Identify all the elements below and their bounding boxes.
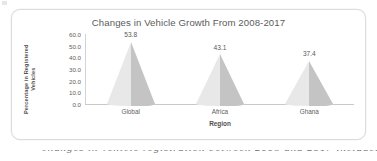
y-axis-tick-label: 0.0 [72, 101, 81, 108]
x-axis-category-label: Global [86, 108, 175, 115]
bar-value-label: 53.8 [124, 31, 137, 38]
y-axis-tick-label: 40.0 [69, 54, 81, 61]
plot-area: 60.050.040.030.020.010.00.0 53.843.137.4… [58, 34, 354, 114]
y-axis-title: Percentage in Registered Vehicles [23, 44, 37, 114]
y-axis-title-line-2: Vehicles [30, 44, 37, 114]
x-axis-category-label: Africa [175, 108, 264, 115]
cone-right-face [220, 54, 244, 104]
bar-slot: 43.1 [175, 34, 264, 104]
x-axis-category-labels: GlobalAfricaGhana [86, 108, 354, 120]
y-axis-tick-label: 60.0 [69, 31, 81, 38]
page-artifact-speck [2, 1, 7, 5]
bar-value-label: 43.1 [214, 44, 227, 51]
cone-bar[interactable] [107, 41, 155, 104]
cone-bar[interactable] [196, 54, 244, 104]
bar-slot: 37.4 [265, 34, 354, 104]
x-axis-category-label: Ghana [265, 108, 354, 115]
y-axis-title-line-1: Percentage in Registered [23, 44, 30, 114]
y-axis-tick-label: 50.0 [69, 42, 81, 49]
y-axis-tick-label: 20.0 [69, 77, 81, 84]
bar-value-label: 37.4 [303, 50, 316, 57]
chart-container: Changes in Vehicle Growth From 2008-2017… [11, 9, 366, 140]
chart-title: Changes in Vehicle Growth From 2008-2017 [12, 17, 365, 28]
cone-right-face [309, 61, 333, 104]
clipped-body-text: changes in vehicle registration between … [0, 150, 377, 161]
cone-right-face [131, 42, 155, 104]
cone-bar[interactable] [285, 60, 333, 104]
cone-left-face [107, 42, 131, 104]
bar-series: 53.843.137.4 [86, 34, 354, 104]
clipped-body-text-line: changes in vehicle registration between … [42, 150, 342, 153]
y-axis-tick-label: 10.0 [69, 89, 81, 96]
x-axis-title: Region [86, 120, 354, 127]
cone-left-face [285, 61, 309, 104]
cone-left-face [196, 54, 220, 104]
bar-slot: 53.8 [86, 34, 175, 104]
y-axis-tick-labels: 60.050.040.030.020.010.00.0 [58, 34, 84, 104]
y-axis-tick-label: 30.0 [69, 66, 81, 73]
